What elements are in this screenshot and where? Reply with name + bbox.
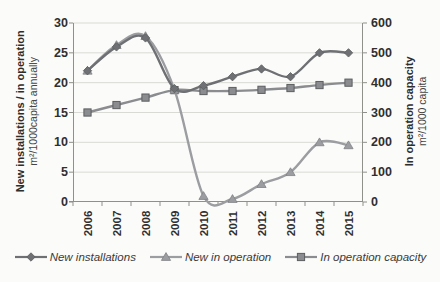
legend-label: New installations: [50, 251, 136, 263]
y-axis-left-tick-label: 25: [38, 45, 68, 61]
y-axis-right-tick-label: 400: [371, 75, 411, 91]
x-axis-tick-label: 2008: [140, 207, 153, 241]
marker-square: [287, 84, 294, 91]
legend-marker-triangle: [149, 251, 183, 263]
x-axis-tick-label: 2009: [169, 207, 182, 241]
y-axis-left-tick-label: 5: [38, 164, 68, 180]
legend-item: New in operation: [149, 251, 271, 263]
x-axis-tick-label: 2014: [314, 207, 327, 241]
legend-label: New in operation: [185, 251, 271, 263]
legend-marker-square: [284, 251, 318, 263]
y-axis-left-tick-label: 30: [38, 15, 68, 31]
y-axis-right-tick-label: 300: [371, 105, 411, 121]
x-axis-tick-label: 2010: [198, 207, 211, 241]
marker-square: [345, 79, 352, 86]
right-axis-title-units: m²/1000 capita: [415, 11, 427, 211]
plot-area: [73, 23, 363, 202]
series-line-square: [88, 83, 349, 113]
legend: New installationsNew in operationIn oper…: [0, 251, 440, 263]
marker-square: [229, 87, 236, 94]
marker-diamond: [26, 253, 34, 261]
marker-square: [316, 81, 323, 88]
marker-square: [142, 94, 149, 101]
marker-square: [113, 101, 120, 108]
marker-square: [258, 86, 265, 93]
y-axis-right-tick-label: 0: [371, 194, 411, 210]
series-line-diamond: [88, 36, 349, 92]
left-axis-title-units: m²/1000capita annually: [26, 11, 38, 211]
left-axis-title-main: New installations / in operation: [14, 11, 27, 211]
marker-diamond: [286, 73, 294, 81]
x-axis-tick-label: 2007: [111, 207, 124, 241]
y-axis-left-tick-label: 0: [38, 194, 68, 210]
marker-diamond: [257, 65, 265, 73]
legend-item: New installations: [14, 251, 136, 263]
legend-marker-diamond: [14, 251, 48, 263]
legend-label: In operation capacity: [320, 251, 426, 263]
marker-diamond: [344, 49, 352, 57]
y-axis-left-tick-label: 20: [38, 75, 68, 91]
marker-diamond: [228, 73, 236, 81]
x-axis-tick-label: 2011: [227, 207, 240, 241]
left-axis-title: New installations / in operation m²/1000…: [14, 11, 39, 211]
marker-triangle: [199, 192, 208, 200]
marker-square: [298, 253, 305, 260]
x-axis-tick-label: 2013: [285, 207, 298, 241]
y-axis-right-tick-label: 600: [371, 15, 411, 31]
y-axis-right-tick-label: 100: [371, 164, 411, 180]
x-axis-tick-label: 2015: [343, 207, 356, 241]
y-axis-right-tick-label: 500: [371, 45, 411, 61]
chart-figure: New installations / in operation m²/1000…: [0, 0, 440, 282]
y-axis-right-tick-label: 200: [371, 134, 411, 150]
x-axis-tick-label: 2006: [82, 207, 95, 241]
marker-square: [84, 109, 91, 116]
y-axis-left-tick-label: 15: [38, 105, 68, 121]
legend-item: In operation capacity: [284, 251, 426, 263]
y-axis-left-tick-label: 10: [38, 134, 68, 150]
x-axis-tick-label: 2012: [256, 207, 269, 241]
